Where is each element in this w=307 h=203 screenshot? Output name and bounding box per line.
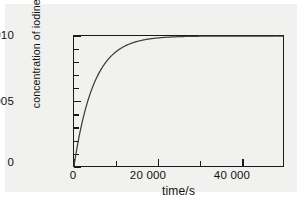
- y-tick-label-0: 0: [7, 156, 14, 168]
- figure-canvas: concentration of iodine/mol litre−1 0.01…: [0, 0, 307, 203]
- y-major-tick-0: [74, 167, 81, 168]
- y-tick-label-0.010: 0.010: [0, 29, 14, 41]
- x-axis-title: time/s: [73, 184, 284, 198]
- plot-area: [73, 35, 284, 167]
- curve-polyline: [74, 36, 283, 166]
- x-tick-label-40000: 40 000: [197, 169, 267, 181]
- y-axis-title: concentration of iodine/mol litre−1: [28, 0, 42, 109]
- y-tick-label-0.005: 0.005: [0, 95, 14, 107]
- x-tick-label-0: 0: [53, 169, 93, 181]
- concentration-curve: [74, 36, 283, 166]
- y-axis-title-text: concentration of iodine/mol litre: [30, 0, 42, 108]
- x-minor-tick-50000: [283, 161, 284, 166]
- figure-panel: concentration of iodine/mol litre−1 0.01…: [5, 4, 297, 192]
- x-tick-label-20000: 20 000: [113, 169, 183, 181]
